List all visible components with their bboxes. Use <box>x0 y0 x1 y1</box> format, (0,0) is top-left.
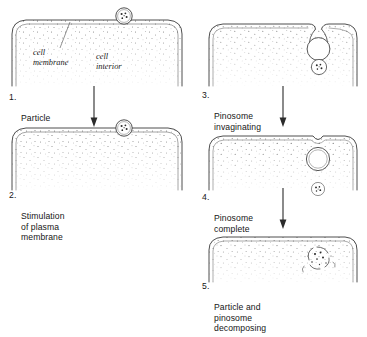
particle-icon <box>308 56 330 78</box>
stage-5-number: 5. <box>202 281 209 292</box>
stage-5-caption: 5. Particle and pinosome decomposing <box>202 281 317 337</box>
stage-5-cell-drawing <box>205 232 361 284</box>
stage-2-figure <box>8 122 186 192</box>
stage-2-caption: 2. Stimulation of plasma membrane <box>9 190 129 254</box>
stage-4-cell-drawing <box>205 130 361 192</box>
stage-3-figure <box>205 18 361 88</box>
particle-icon <box>112 116 136 140</box>
annotation-cell-interior: cell interior <box>96 52 122 72</box>
cytoplasm-stipple <box>205 18 361 88</box>
stage-5-label: Particle and pinosome decomposing <box>214 302 317 334</box>
particle-icon <box>112 4 136 28</box>
stage-1-number: 1. <box>9 92 16 103</box>
stage-2-cell-drawing <box>8 122 186 192</box>
stage-2-label: Stimulation of plasma membrane <box>21 211 129 243</box>
stage-4-figure <box>205 130 361 192</box>
cytoplasm-stipple <box>205 232 361 284</box>
stage-3-number: 3. <box>202 90 209 101</box>
arrow-stage-4-to-5 <box>277 188 289 230</box>
annotation-cell-membrane: cell membrane <box>33 48 68 68</box>
cytoplasm-stipple <box>8 122 186 192</box>
stage-3-cell-drawing <box>205 18 361 88</box>
cytoplasm-stipple <box>205 130 361 192</box>
arrow-stage-3-to-4 <box>277 86 289 128</box>
pinosome-vesicle-outline <box>306 147 329 170</box>
stage-2-number: 2. <box>9 190 16 201</box>
stage-5-figure <box>205 232 361 284</box>
stage-4-number: 4. <box>202 192 209 203</box>
